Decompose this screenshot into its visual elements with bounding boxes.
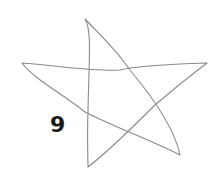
- star-outline: [22, 19, 207, 167]
- number-label: 9: [50, 114, 65, 136]
- star-sketch: [0, 0, 223, 185]
